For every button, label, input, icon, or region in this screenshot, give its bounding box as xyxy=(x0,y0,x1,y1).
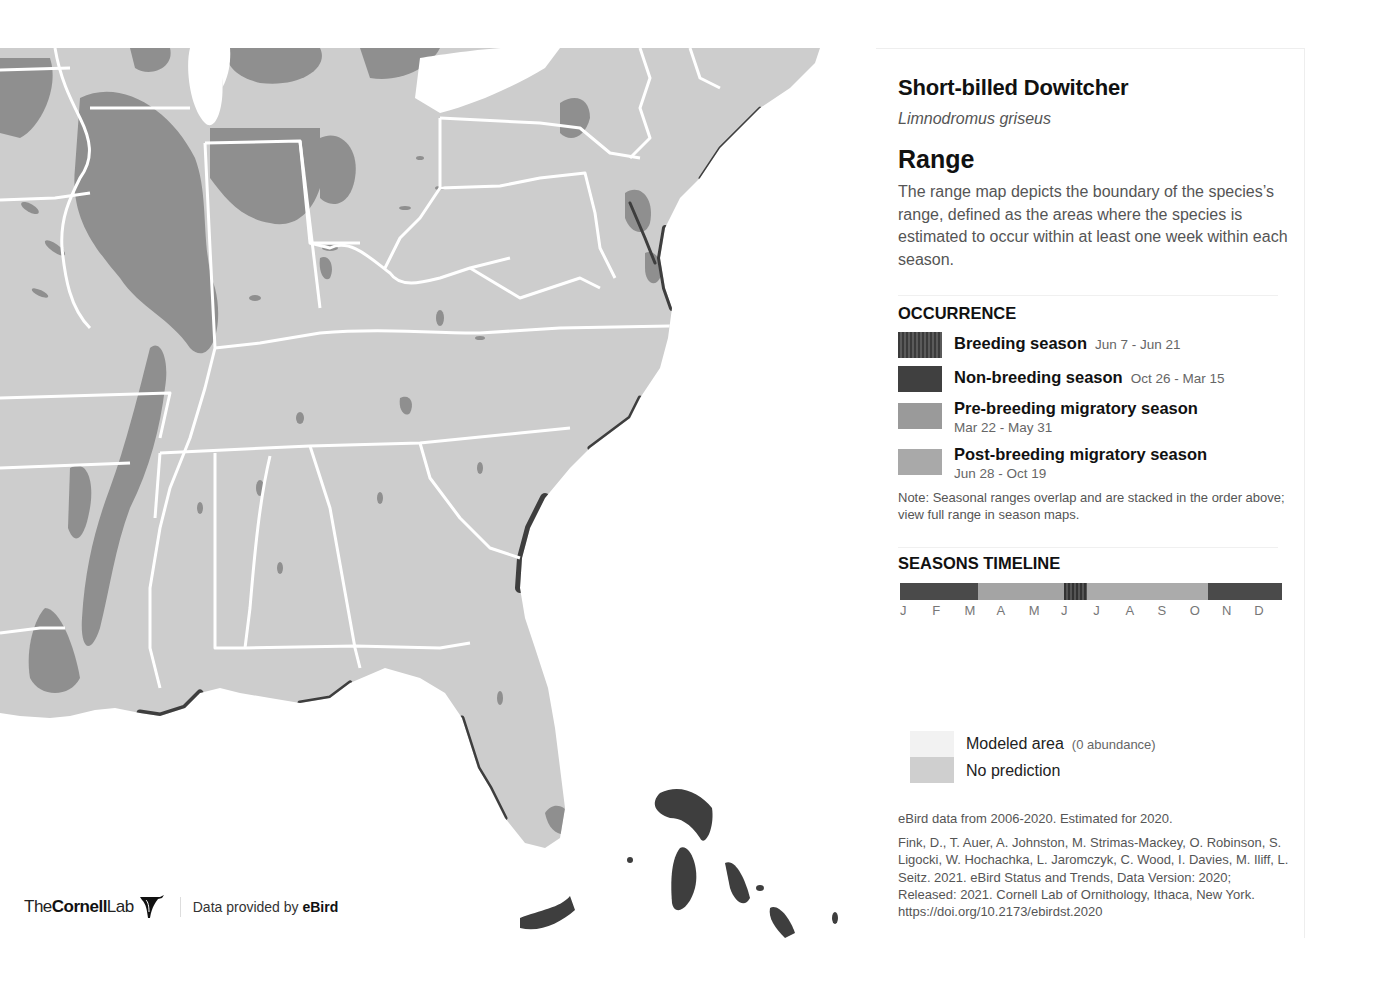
modeled-area-swatch xyxy=(910,731,954,757)
divider xyxy=(898,547,1278,548)
ebird-brand: eBird xyxy=(302,899,338,915)
data-provided-by[interactable]: Data provided by eBird xyxy=(193,899,339,915)
timeline-segment-non-breeding[interactable] xyxy=(1208,583,1282,600)
month-label: S xyxy=(1158,603,1167,618)
modeled-area-label: Modeled area xyxy=(966,735,1064,752)
footer-separator xyxy=(180,897,181,917)
cornell-bird-icon xyxy=(138,894,166,920)
timeline-segment-breeding[interactable] xyxy=(1064,583,1087,600)
range-description: The range map depicts the boundary of th… xyxy=(898,181,1293,272)
month-label: M xyxy=(1029,603,1040,618)
legend-item-pre-breeding[interactable]: Pre-breeding migratory season Mar 22 - M… xyxy=(898,403,1298,433)
citation: Fink, D., T. Auer, A. Johnston, M. Strim… xyxy=(898,834,1293,920)
month-label: O xyxy=(1190,603,1200,618)
timeline-heading: SEASONS TIMELINE xyxy=(898,554,1060,573)
species-scientific-name: Limnodromus griseus xyxy=(898,110,1051,128)
legend-label: Breeding season xyxy=(954,334,1087,352)
month-label: A xyxy=(1125,603,1134,618)
no-prediction-swatch xyxy=(910,757,954,783)
month-label: A xyxy=(997,603,1006,618)
month-label: M xyxy=(964,603,975,618)
footer: TheCornellLab Data provided by eBird xyxy=(24,893,338,921)
legend-dates: Oct 26 - Mar 15 xyxy=(1131,371,1225,386)
non-breeding-swatch xyxy=(898,366,942,392)
month-label: N xyxy=(1222,603,1231,618)
legend-label: Non-breeding season xyxy=(954,368,1123,386)
legend-item-post-breeding[interactable]: Post-breeding migratory season Jun 28 - … xyxy=(898,449,1298,479)
legend-label: Pre-breeding migratory season xyxy=(954,399,1198,418)
occurrence-heading: OCCURRENCE xyxy=(898,304,1016,323)
no-prediction-label: No prediction xyxy=(966,762,1060,780)
month-label: F xyxy=(932,603,940,618)
range-heading: Range xyxy=(898,145,974,174)
seasons-timeline-bar[interactable] xyxy=(900,583,1282,600)
divider xyxy=(898,295,1278,296)
timeline-segment-post-breeding[interactable] xyxy=(1087,583,1208,600)
pre-breeding-swatch xyxy=(898,403,942,429)
info-panel: Short-billed Dowitcher Limnodromus grise… xyxy=(876,48,1305,938)
month-label: J xyxy=(900,603,907,618)
legend-item-breeding[interactable]: Breeding seasonJun 7 - Jun 21 xyxy=(898,332,1298,362)
range-map[interactable] xyxy=(0,48,860,940)
month-label: J xyxy=(1061,603,1068,618)
post-breeding-swatch xyxy=(898,449,942,475)
month-label: J xyxy=(1093,603,1100,618)
month-label: D xyxy=(1254,603,1263,618)
timeline-segment-pre-breeding[interactable] xyxy=(978,583,1064,600)
timeline-segment-non-breeding[interactable] xyxy=(900,583,978,600)
legend-item-non-breeding[interactable]: Non-breeding seasonOct 26 - Mar 15 xyxy=(898,366,1298,396)
data-source-line: eBird data from 2006-2020. Estimated for… xyxy=(898,811,1173,826)
legend-dates: Jun 7 - Jun 21 xyxy=(1095,337,1181,352)
cornell-lab-logo[interactable]: TheCornellLab xyxy=(24,894,166,920)
modeled-area-sub: (0 abundance) xyxy=(1072,737,1156,752)
legend-dates: Mar 22 - May 31 xyxy=(954,420,1052,435)
timeline-months: JFMAMJJASOND xyxy=(898,603,1288,619)
legend-dates: Jun 28 - Oct 19 xyxy=(954,466,1046,481)
occurrence-note: Note: Seasonal ranges overlap and are st… xyxy=(898,489,1293,523)
breeding-swatch xyxy=(898,332,942,358)
species-common-name: Short-billed Dowitcher xyxy=(898,75,1128,101)
legend-label: Post-breeding migratory season xyxy=(954,445,1207,464)
